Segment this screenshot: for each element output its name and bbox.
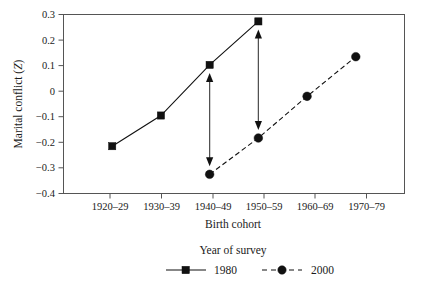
y-tick-label: −0.2 [36,137,55,148]
square-marker [255,18,262,25]
y-tick-label: −0.4 [36,188,56,199]
y-axis-title: Marital conflict (Z) [12,59,25,148]
y-tick-label: 0.3 [42,9,55,20]
y-tick-label: 0.1 [42,60,55,71]
x-axis: 1920–29 1930–39 1940–49 1950–59 1960–69 … [92,194,385,213]
y-tick-label: 0 [50,86,55,97]
circle-marker [278,266,286,274]
legend-entry-2000[interactable]: 2000 [262,264,334,276]
legend-title: Year of survey [199,244,266,257]
x-tick-label: 1920–29 [92,201,129,212]
x-tick-label: 1940–49 [195,201,232,212]
x-tick-label: 1970–79 [348,201,385,212]
gap-annotations [206,29,262,166]
series-line-2000 [210,57,356,175]
legend: Year of survey 1980 2000 [166,244,334,276]
arrow-head-down [255,121,262,130]
series-markers-1980 [109,18,262,150]
arrow-head-up [255,29,262,38]
cohort-gap-arrow-1940-49 [206,73,213,166]
y-tick-label: −0.3 [36,162,55,173]
square-marker [182,266,189,273]
y-axis: 0.3 0.2 0.1 0 −0.1 −0.2 −0.3 −0.4 [36,9,64,199]
marital-conflict-line-chart: 0.3 0.2 0.1 0 −0.1 −0.2 −0.3 −0.4 Marita… [0,0,421,281]
x-axis-title: Birth cohort [205,218,262,230]
circle-marker [351,52,360,61]
series-line-1980 [112,21,258,146]
x-tick-label: 1960–69 [297,201,334,212]
chart-figure: 0.3 0.2 0.1 0 −0.1 −0.2 −0.3 −0.4 Marita… [0,0,421,281]
y-tick-label: −0.1 [36,111,55,122]
square-marker [109,143,116,150]
x-tick-label: 1950–59 [246,201,283,212]
circle-marker [205,170,214,179]
plot-area-frame [64,15,405,194]
square-marker [157,112,164,119]
legend-entry-1980[interactable]: 1980 [166,264,237,276]
series-1980 [109,18,262,150]
y-axis-title-text: Marital conflict ( [12,70,25,149]
legend-label-1980: 1980 [214,264,237,276]
arrow-head-up [206,73,213,82]
y-tick-label: 0.2 [42,35,55,46]
circle-marker [254,134,263,143]
x-tick-label: 1930–39 [143,201,180,212]
cohort-gap-arrow-1950-59 [255,29,262,130]
series-2000 [205,52,360,178]
square-marker [206,61,213,68]
arrow-head-down [206,157,213,166]
svg-text:Marital conflict (Z): Marital conflict (Z) [12,59,25,148]
series-markers-2000 [205,52,360,178]
y-axis-title-paren: ) [12,59,25,63]
legend-label-2000: 2000 [311,264,334,276]
circle-marker [303,92,312,101]
